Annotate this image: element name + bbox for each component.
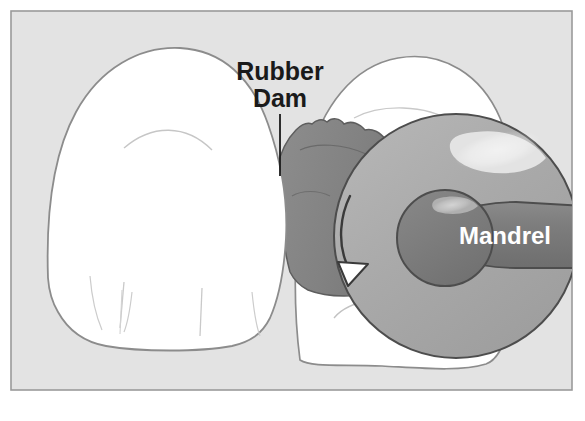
mandrel-label: Mandrel [459,222,551,249]
dental-illustration-svg: Rubber Dam Mandrel [0,0,585,421]
label-mandrel: Mandrel [459,222,551,249]
illustration-root: Rubber Dam Mandrel [0,0,585,421]
rubber-dam-label-line2: Dam [253,84,307,112]
rubber-dam-label-line1: Rubber [236,57,324,85]
